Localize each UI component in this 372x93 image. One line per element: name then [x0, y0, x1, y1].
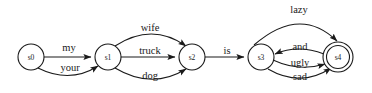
- state-s0[interactable]: s0: [18, 44, 44, 70]
- transition-truck-label: truck: [139, 45, 161, 56]
- state-s3-label: s3: [258, 53, 265, 62]
- transition-my-label: my: [62, 42, 76, 53]
- transition-and-label: and: [292, 41, 308, 52]
- transition-lazy-label: lazy: [290, 4, 308, 15]
- transition-sad[interactable]: sad: [268, 68, 331, 82]
- transition-sad-label: sad: [293, 71, 308, 82]
- state-s2[interactable]: s2: [179, 44, 205, 70]
- state-s3[interactable]: s3: [248, 44, 274, 70]
- transition-dog-label: dog: [142, 70, 159, 81]
- transition-is-label: is: [223, 45, 230, 56]
- state-s1[interactable]: s1: [95, 44, 121, 70]
- state-s4-accepting[interactable]: s4: [323, 42, 353, 72]
- transition-wife[interactable]: wife: [115, 22, 186, 46]
- fsa-diagram-container: my your wife truck dog is: [0, 0, 372, 93]
- transition-wife-label: wife: [141, 22, 160, 33]
- transition-your[interactable]: your: [38, 62, 98, 76]
- transition-ugly[interactable]: ugly: [273, 57, 325, 68]
- transition-is[interactable]: is: [205, 45, 244, 57]
- transition-truck[interactable]: truck: [121, 45, 175, 57]
- state-s1-label: s1: [105, 53, 112, 62]
- fsa-diagram-canvas: my your wife truck dog is: [0, 0, 372, 93]
- transition-dog[interactable]: dog: [115, 68, 186, 81]
- transition-and[interactable]: and: [275, 41, 324, 54]
- transition-your-label: your: [60, 62, 80, 73]
- transition-ugly-label: ugly: [291, 57, 310, 68]
- transition-my[interactable]: my: [44, 42, 91, 57]
- state-s4-label: s4: [335, 53, 342, 62]
- transition-lazy[interactable]: lazy: [254, 4, 337, 45]
- state-s0-label: s0: [28, 53, 35, 62]
- state-s2-label: s2: [189, 53, 196, 62]
